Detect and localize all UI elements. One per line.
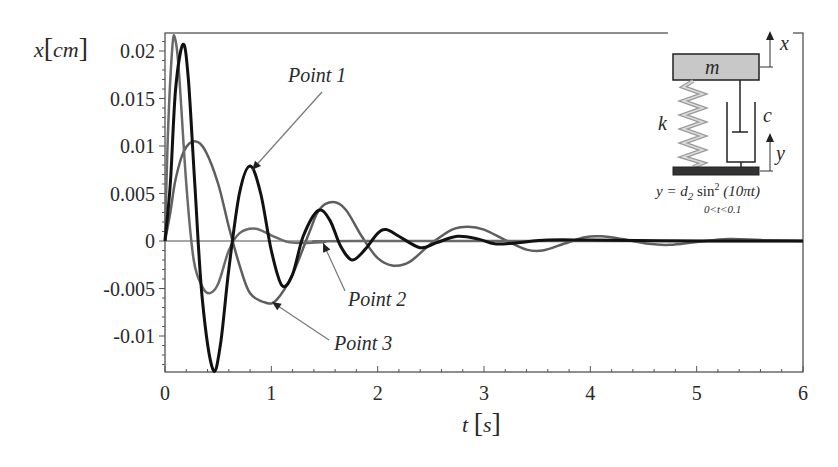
spring-label: k bbox=[658, 112, 668, 134]
y-tick-label: -0.01 bbox=[113, 325, 155, 347]
excitation-condition: 0<t<0.1 bbox=[704, 203, 741, 215]
x-tick-label: 3 bbox=[479, 382, 489, 404]
x-tick-label: 5 bbox=[692, 382, 702, 404]
y-axis-title-text: x[cm] bbox=[33, 32, 88, 63]
annotation-arrow bbox=[272, 302, 329, 340]
y-displacement-label: y bbox=[774, 142, 785, 165]
annotation-label: Point 3 bbox=[333, 332, 392, 354]
y-tick-label: 0.01 bbox=[120, 135, 155, 157]
mass-label: m bbox=[705, 56, 719, 78]
x-tick-label: 6 bbox=[798, 382, 808, 404]
vibration-response-chart: 0.020.0150.010.0050-0.005-0.010123456x[c… bbox=[0, 0, 838, 467]
annotation-arrow bbox=[252, 92, 322, 170]
damper-label: c bbox=[763, 104, 772, 126]
annotation-label: Point 1 bbox=[287, 64, 346, 86]
excitation-equation: y = d2 sin2 (10πt) bbox=[654, 181, 760, 202]
arrowhead-icon bbox=[272, 302, 282, 310]
x-displacement-label: x bbox=[779, 32, 789, 54]
x-axis-title-text: t [s] bbox=[462, 407, 501, 438]
base-block bbox=[673, 167, 759, 175]
x-tick-label: 2 bbox=[373, 382, 383, 404]
x-tick-label: 4 bbox=[585, 382, 595, 404]
y-tick-label: 0.02 bbox=[120, 40, 155, 62]
y-tick-label: 0.015 bbox=[110, 88, 155, 110]
plot-annotations: Point 1Point 2Point 3 bbox=[252, 64, 406, 354]
x-tick-label: 1 bbox=[266, 382, 276, 404]
x-tick-label: 0 bbox=[160, 382, 170, 404]
y-tick-label: -0.005 bbox=[103, 278, 155, 300]
y-tick-label: 0 bbox=[145, 230, 155, 252]
y-tick-label: 0.005 bbox=[110, 183, 155, 205]
annotation-label: Point 2 bbox=[347, 288, 406, 310]
mass-spring-damper-inset: m k c x y y = d2 sin2 (10πt) 0<t<0.1 bbox=[654, 20, 793, 228]
